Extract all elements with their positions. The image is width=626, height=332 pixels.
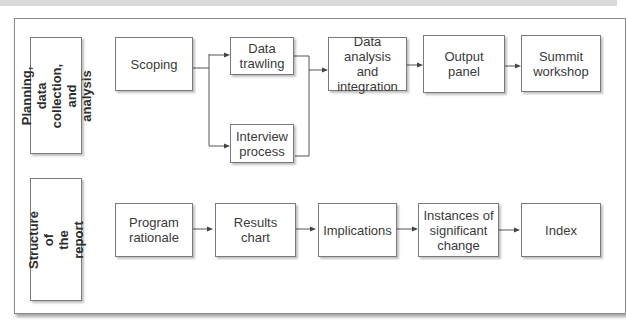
node-results-chart: Results chart [215,203,296,257]
node-instances-of-significant-change: Instances of significant change [418,203,499,257]
row-label-structure-text: Structure of the report [26,211,86,269]
node-implications: Implications [318,203,397,257]
row-label-structure: Structure of the report [30,178,82,301]
node-summit-workshop: Summit workshop [521,35,601,92]
node-data-trawling: Data trawling [230,37,294,75]
page-top-band [0,0,617,6]
row-label-planning-text: Planning, data collection, and analysis [19,63,94,127]
node-output-panel: Output panel [423,35,505,93]
row-label-planning: Planning, data collection, and analysis [30,37,82,154]
node-scoping: Scoping [115,37,193,91]
node-index: Index [521,203,601,257]
node-data-analysis: Data analysis and integration [328,37,407,91]
node-program-rationale: Program rationale [115,203,193,257]
node-interview-process: Interview process [230,124,294,163]
